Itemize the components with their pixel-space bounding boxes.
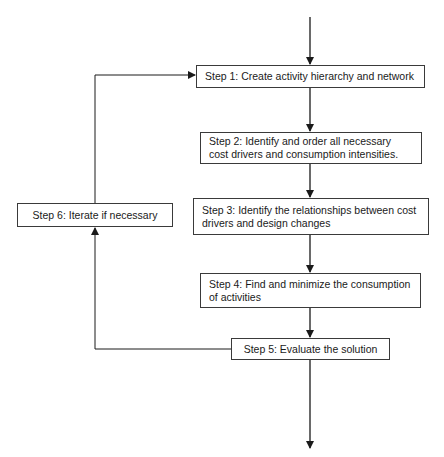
step-3-box: Step 3: Identify the relationships betwe…: [193, 198, 429, 235]
step-4-box: Step 4: Find and minimize the consumptio…: [200, 273, 421, 308]
step-5-label: Step 5: Evaluate the solution: [244, 343, 378, 356]
step-2-box: Step 2: Identify and order all necessary…: [200, 132, 422, 164]
step-6-label: Step 6: Iterate if necessary: [33, 209, 158, 222]
arrow-step6-step1: [95, 75, 195, 203]
step-2-label: Step 2: Identify and order all necessary…: [209, 135, 413, 161]
step-4-label: Step 4: Find and minimize the consumptio…: [209, 278, 412, 304]
step-5-box: Step 5: Evaluate the solution: [231, 338, 390, 360]
step-6-box: Step 6: Iterate if necessary: [17, 203, 173, 227]
step-3-label: Step 3: Identify the relationships betwe…: [202, 204, 420, 230]
step-1-box: Step 1: Create activity hierarchy and ne…: [196, 65, 425, 88]
step-1-label: Step 1: Create activity hierarchy and ne…: [205, 70, 414, 83]
